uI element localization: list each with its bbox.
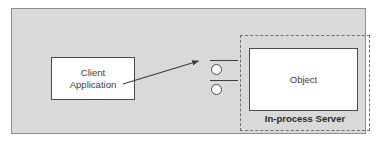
object-node: Object — [249, 48, 358, 111]
in-process-server-label: In-process Server — [240, 113, 370, 124]
client-application-label-line2: Application — [70, 79, 116, 90]
client-application-node: Client Application — [51, 57, 135, 100]
diagram-root: Object In-process Server Client Applicat… — [0, 0, 380, 147]
interface-circle-top — [211, 64, 222, 75]
client-application-label-line1: Client — [81, 67, 105, 78]
diagram-canvas-frame: Object In-process Server Client Applicat… — [11, 8, 366, 134]
object-node-label: Object — [290, 74, 317, 85]
interface-circle-bottom — [211, 84, 222, 95]
